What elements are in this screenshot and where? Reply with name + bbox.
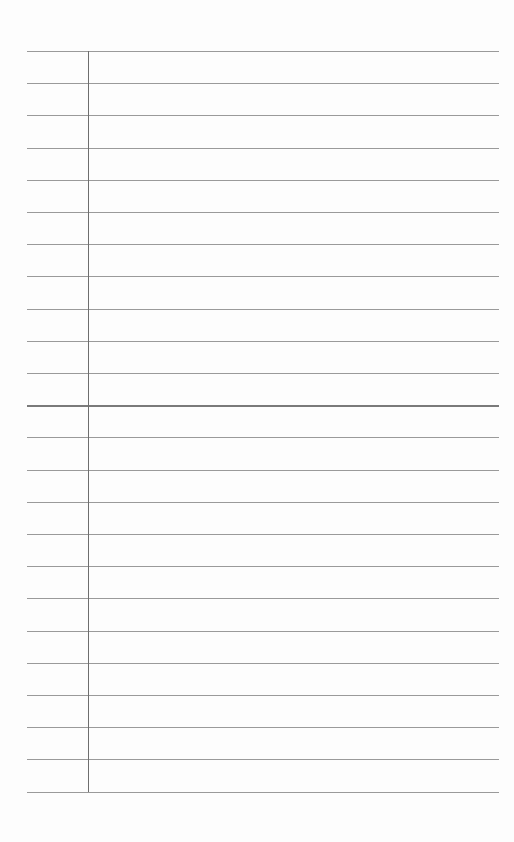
ruled-line [27, 51, 499, 52]
ruled-line [27, 341, 499, 342]
ruled-line [27, 502, 499, 503]
ruled-line [27, 309, 499, 310]
ruled-line [27, 405, 499, 407]
ruled-line [27, 631, 499, 632]
ruled-line [27, 373, 499, 374]
ruled-line [27, 470, 499, 471]
ruled-line [27, 534, 499, 535]
ruled-line [27, 115, 499, 116]
ruled-line [27, 727, 499, 728]
ruled-line [27, 276, 499, 277]
ruled-line [27, 180, 499, 181]
ruled-line [27, 663, 499, 664]
ruled-line [27, 212, 499, 213]
ruled-line [27, 437, 499, 438]
lined-paper [0, 0, 514, 842]
ruled-line [27, 759, 499, 760]
ruled-line [27, 148, 499, 149]
margin-line [88, 51, 89, 792]
ruled-line [27, 695, 499, 696]
ruled-line [27, 598, 499, 599]
ruled-line [27, 566, 499, 567]
ruled-line [27, 244, 499, 245]
ruled-line [27, 792, 499, 793]
ruled-line [27, 83, 499, 84]
